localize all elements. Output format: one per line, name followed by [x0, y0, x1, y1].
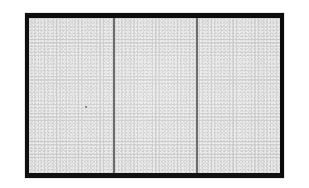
specimen-frame: [25, 13, 284, 178]
panel-center: [115, 18, 196, 173]
panel-left: [29, 18, 113, 173]
panel-right: [198, 18, 280, 173]
inclusion-speck: [85, 106, 87, 108]
divider-line-2: [196, 18, 198, 173]
figure-caption: Rectangular specimen with dark outer fra…: [0, 0, 1, 1]
stippled-field: [29, 18, 280, 173]
divider-line-1: [113, 18, 115, 173]
figure-canvas: Rectangular specimen with dark outer fra…: [0, 0, 309, 188]
